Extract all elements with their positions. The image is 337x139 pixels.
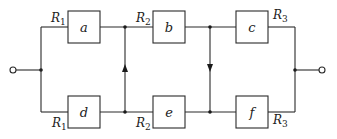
circuit-diagram: a b c d e f R1 R2 R3 R1 R2 R3 [0, 0, 337, 139]
element-a: a [68, 11, 100, 43]
element-d: d [68, 96, 100, 128]
svg-text:d: d [80, 105, 88, 120]
label-r3-bottom: R3 [272, 113, 288, 129]
junction-bottom-2 [208, 110, 212, 114]
input-terminal [10, 67, 16, 73]
element-b: b [153, 11, 185, 43]
output-terminal [319, 67, 325, 73]
label-r2-bottom: R2 [135, 116, 151, 132]
junction-top-2 [208, 25, 212, 29]
label-r3-top: R3 [272, 8, 288, 24]
arrow-up-icon [122, 64, 128, 72]
svg-text:a: a [80, 20, 88, 35]
svg-text:c: c [248, 20, 256, 35]
element-f: f [236, 96, 268, 128]
element-c: c [236, 11, 268, 43]
label-r2-top: R2 [135, 11, 151, 27]
arrow-down-icon [207, 64, 213, 72]
svg-text:e: e [165, 105, 173, 120]
junction-top-1 [123, 25, 127, 29]
label-r1-bottom: R1 [51, 116, 67, 132]
element-e: e [153, 96, 185, 128]
label-r1-top: R1 [50, 11, 66, 27]
junction-bottom-1 [123, 110, 127, 114]
svg-text:b: b [165, 20, 173, 35]
